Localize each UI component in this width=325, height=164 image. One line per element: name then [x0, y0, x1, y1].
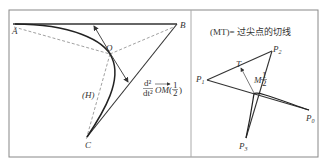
label-h: (H) — [82, 90, 95, 100]
label-p2: P2 — [272, 44, 282, 55]
arg-denominator: 2 — [173, 88, 178, 98]
m-arg-denominator: 2 — [262, 78, 267, 88]
left-panel: A B C O (H) d² dt² OM ( 1 2 ) — [11, 20, 186, 150]
label-o: O — [106, 43, 113, 53]
label-p0: P0 — [305, 113, 315, 124]
second-derivative-label: d² dt² OM ( 1 2 ) — [143, 78, 182, 98]
label-a: A — [11, 26, 18, 36]
d2-denominator: dt² — [143, 88, 153, 98]
dashed-ob — [110, 26, 176, 54]
vector-down — [110, 53, 128, 82]
label-t: T — [236, 59, 242, 69]
segment-p2p3 — [246, 51, 272, 138]
d2-numerator: d² — [144, 78, 152, 88]
diagram: A B C O (H) d² dt² OM ( 1 2 ) (MT)= 过尖点的… — [0, 0, 325, 164]
paren-close: ) — [179, 85, 182, 95]
paren-open: ( — [169, 85, 172, 95]
label-b: B — [180, 20, 186, 30]
label-p1: P1 — [195, 74, 205, 85]
tangent-mt — [241, 68, 254, 93]
label-m: M — [253, 75, 262, 85]
right-panel: (MT)= 过尖点的切线 P1 P2 P0 P3 T M 1 2 — [195, 26, 315, 152]
vector-om: OM — [155, 85, 169, 95]
caption: (MT)= 过尖点的切线 — [210, 26, 291, 37]
label-p3: P3 — [238, 141, 248, 152]
line-bc — [87, 24, 177, 137]
label-c: C — [85, 140, 92, 150]
curve-cusp — [246, 93, 309, 138]
